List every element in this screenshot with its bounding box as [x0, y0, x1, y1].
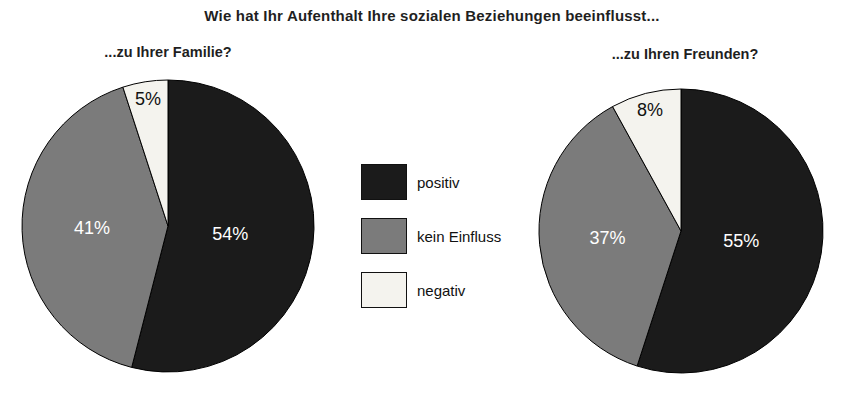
legend-item-positiv: positiv — [361, 164, 501, 200]
legend-label-negativ: negativ — [417, 282, 465, 299]
family-label-negativ: 5% — [135, 89, 161, 109]
figure-canvas: { "title": "Wie hat Ihr Aufenthalt Ihre … — [0, 0, 844, 394]
legend-item-kein-einfluss: kein Einfluss — [361, 218, 501, 254]
family-pie-title: ...zu Ihrer Familie? — [21, 44, 315, 60]
family-pie-chart: 54%41%5% — [21, 79, 315, 373]
friends-label-positiv: 55% — [723, 231, 759, 251]
family-label-kein-einfluss: 41% — [74, 218, 110, 238]
friends-pie-chart: 55%37%8% — [538, 88, 824, 374]
figure-title: Wie hat Ihr Aufenthalt Ihre sozialen Bez… — [20, 7, 844, 24]
legend-label-kein-einfluss: kein Einfluss — [417, 228, 501, 245]
legend-swatch-positiv — [361, 164, 407, 200]
legend-swatch-negativ — [361, 272, 407, 308]
friends-pie-title: ...zu Ihren Freunden? — [538, 46, 832, 62]
legend: positiv kein Einfluss negativ — [361, 164, 501, 308]
family-label-positiv: 54% — [212, 224, 248, 244]
legend-item-negativ: negativ — [361, 272, 501, 308]
friends-label-kein-einfluss: 37% — [589, 228, 625, 248]
legend-label-positiv: positiv — [417, 174, 460, 191]
legend-swatch-kein-einfluss — [361, 218, 407, 254]
friends-label-negativ: 8% — [637, 100, 663, 120]
